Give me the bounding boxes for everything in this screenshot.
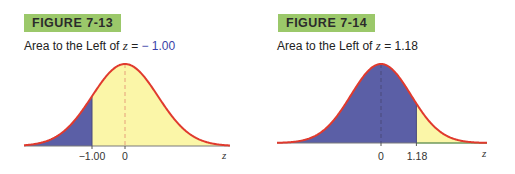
- figure-7-14: FIGURE 7-14 Area to the Left of z = 1.18…: [0, 0, 515, 174]
- axis-label: z: [481, 147, 487, 159]
- tick-label: 0: [378, 150, 384, 162]
- normal-curve-plot: 0 1.18 z: [0, 0, 515, 174]
- tick-label: 1.18: [407, 150, 428, 162]
